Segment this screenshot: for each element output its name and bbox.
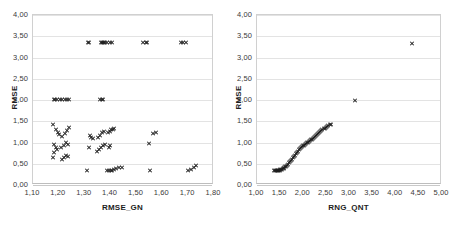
x-tick-label: 1,00 (249, 188, 264, 197)
y-tick-label: 1,00 (237, 137, 252, 146)
y-axis-title-right: RMSE (234, 78, 243, 118)
chart-panel-right: 0,000,501,001,502,002,503,003,504,00 1,0… (224, 0, 448, 232)
x-tick-label: 3,00 (341, 188, 356, 197)
y-tick-label: 3,00 (237, 52, 252, 61)
x-tick-label: 1,50 (128, 188, 143, 197)
data-point-marker (95, 149, 100, 154)
x-axis-ticks-right: 1,001,502,002,503,003,504,004,505,00 (256, 188, 441, 200)
data-point-marker (101, 97, 106, 102)
data-point-marker (328, 122, 333, 127)
data-point-marker (66, 154, 71, 159)
plot-area-left (32, 14, 213, 184)
y-tick-label: 0,50 (237, 158, 252, 167)
data-point-marker (145, 40, 150, 45)
x-tick-label: 3,50 (364, 188, 379, 197)
data-point-marker (85, 168, 90, 173)
chart-panel-left: 0,000,501,001,502,002,503,003,504,00 1,1… (0, 0, 224, 232)
data-point-marker (51, 155, 56, 160)
data-point-marker (112, 126, 117, 131)
x-tick-label: 2,00 (295, 188, 310, 197)
data-point-marker (66, 125, 71, 130)
x-tick-label: 1,20 (50, 188, 65, 197)
x-tick-label: 1,50 (272, 188, 287, 197)
data-point-marker (86, 145, 91, 150)
gridline-y-0 (257, 185, 440, 186)
y-axis-title-left: RMSE (10, 78, 19, 118)
y-tick-label: 0,50 (13, 158, 28, 167)
x-tick-label: 4,00 (387, 188, 402, 197)
data-point-marker (410, 41, 415, 46)
data-point-marker (193, 163, 198, 168)
y-tick-label: 3,00 (13, 52, 28, 61)
x-tick-label: 4,50 (410, 188, 425, 197)
data-point-marker (120, 165, 125, 170)
y-tick-label: 4,00 (237, 10, 252, 19)
data-point-marker (108, 143, 113, 148)
x-tick-label: 1,60 (154, 188, 169, 197)
data-point-marker (87, 40, 92, 45)
x-tick-label: 2,50 (318, 188, 333, 197)
data-points-left (33, 15, 212, 183)
x-axis-ticks-left: 1,101,201,301,401,501,601,701,80 (32, 188, 213, 200)
plot-area-right (256, 14, 441, 184)
x-tick-label: 1,80 (206, 188, 221, 197)
data-point-marker (109, 40, 114, 45)
y-tick-label: 3,50 (13, 31, 28, 40)
data-point-marker (353, 98, 358, 103)
y-tick-label: 3,50 (237, 31, 252, 40)
x-axis-title-left: RMSE_GN (32, 203, 213, 212)
data-point-marker (153, 130, 158, 135)
x-tick-label: 1,30 (76, 188, 91, 197)
data-point-marker (146, 141, 151, 146)
x-tick-label: 1,70 (180, 188, 195, 197)
y-tick-label: 1,00 (13, 137, 28, 146)
gridline-y-0 (33, 185, 212, 186)
x-tick-label: 1,10 (25, 188, 40, 197)
x-tick-label: 5,00 (434, 188, 449, 197)
data-point-marker (65, 142, 70, 147)
y-tick-label: 4,00 (13, 10, 28, 19)
data-point-marker (183, 40, 188, 45)
x-tick-label: 1,40 (102, 188, 117, 197)
data-point-marker (67, 97, 72, 102)
data-points-right (257, 15, 440, 183)
data-point-marker (147, 168, 152, 173)
x-axis-title-right: RNG_QNT (256, 203, 441, 212)
